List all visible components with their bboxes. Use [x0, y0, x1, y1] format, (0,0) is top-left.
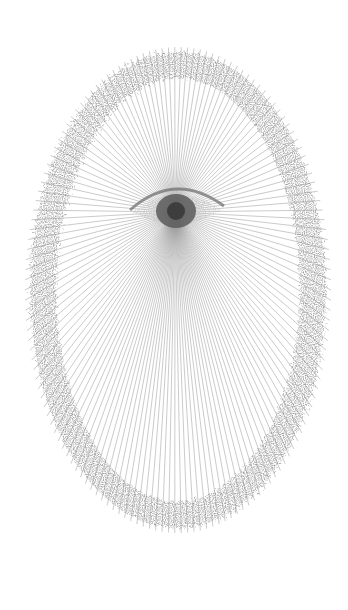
radial-rays [25, 47, 331, 533]
eye-string-art [0, 0, 348, 610]
